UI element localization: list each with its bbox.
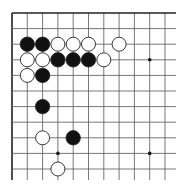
black-stone	[66, 53, 80, 67]
white-stone	[97, 53, 111, 67]
white-stone	[82, 37, 96, 51]
white-stone	[66, 37, 80, 51]
star-point	[56, 152, 60, 156]
black-stone	[35, 37, 49, 51]
board-grid	[12, 13, 176, 180]
white-stone	[20, 53, 34, 67]
white-stone	[20, 68, 34, 82]
white-stone	[36, 131, 50, 145]
black-stone	[35, 68, 49, 82]
white-stone	[36, 53, 50, 67]
white-stone	[112, 37, 126, 51]
black-stone	[51, 53, 65, 67]
black-stone	[20, 37, 34, 51]
star-point	[148, 152, 152, 156]
white-stone	[51, 37, 65, 51]
go-board-diagram	[0, 0, 186, 188]
black-stone	[81, 53, 95, 67]
black-stone	[66, 131, 80, 145]
star-point	[148, 58, 152, 62]
white-stone	[51, 162, 65, 176]
black-stone	[35, 99, 49, 113]
